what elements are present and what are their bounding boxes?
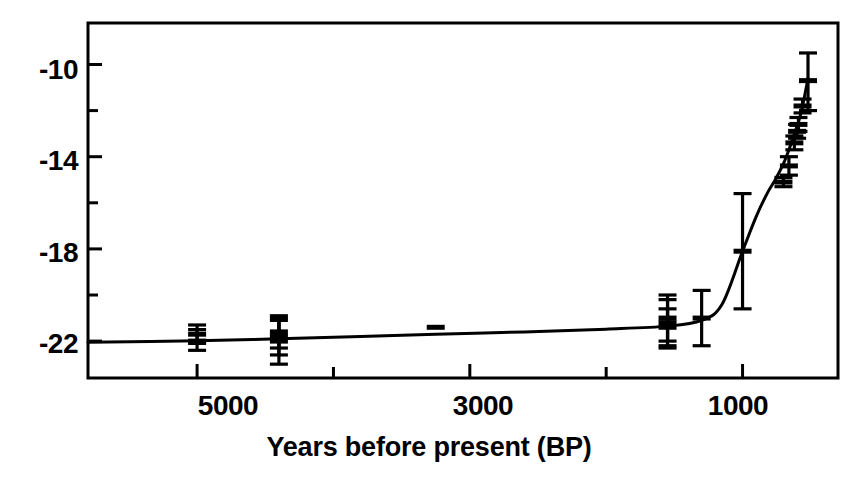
y-tick-label: -10 (16, 56, 78, 84)
x-tick-label: 5000 (168, 392, 288, 420)
y-tick-label: -22 (16, 330, 78, 358)
x-axis-title: Years before present (BP) (129, 434, 729, 461)
chart-figure: -10 -14 -18 -22 5000 3000 1000 Years bef… (0, 0, 858, 484)
x-tick-label: 1000 (678, 392, 798, 420)
y-tick-label: -14 (16, 147, 78, 175)
y-tick-label: -18 (16, 239, 78, 267)
x-tick-label: 3000 (423, 392, 543, 420)
